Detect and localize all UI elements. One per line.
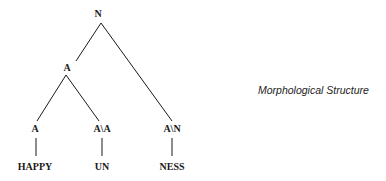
node-root-n: N	[94, 9, 101, 19]
word-ness: NESS	[159, 162, 184, 172]
node-prefix-a-a: A\A	[93, 124, 110, 134]
node-suffix-a-n: A\N	[163, 124, 180, 134]
word-un: UN	[95, 162, 109, 172]
node-adjective-a: A	[63, 63, 70, 73]
edge-a-to-a-a	[66, 75, 99, 121]
edge-a-to-a	[37, 75, 66, 121]
edge-n-to-a	[76, 23, 101, 61]
word-happy: HAPPY	[18, 162, 52, 172]
node-leaf-a: A	[31, 124, 38, 134]
diagram-caption: Morphological Structure	[258, 84, 369, 96]
edge-n-to-a-n	[101, 23, 172, 121]
